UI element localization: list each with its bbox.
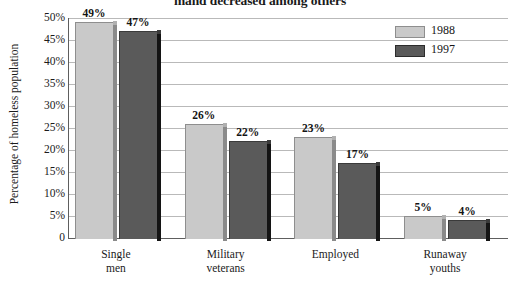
bar-value-label: 22% (225, 126, 271, 138)
bar-side-shadow (376, 166, 380, 241)
bar-face (338, 163, 378, 239)
bar-1988-military-veterans (185, 124, 223, 238)
x-category-label-line: Employed (275, 248, 395, 262)
chart-figure: mand decreased among others Percentage o… (0, 0, 520, 281)
x-category-label-line: Runaway (385, 248, 505, 262)
y-tick-label: 35% (5, 77, 65, 89)
x-category-label-line: youths (385, 262, 505, 276)
y-tick-label: 50% (5, 11, 65, 23)
bar-1997-runaway-youths (448, 220, 486, 238)
bar-value-label: 47% (115, 16, 161, 28)
bar-side-shadow (157, 34, 161, 241)
bar-face (229, 141, 269, 239)
bar-face (448, 220, 488, 239)
bar-top-bevel (332, 136, 336, 140)
bar-1988-employed (294, 137, 332, 238)
x-category-label-line: Military (166, 248, 286, 262)
bar-face (75, 22, 115, 239)
bar-1997-employed (338, 163, 376, 238)
bar-1997-single-men (119, 31, 157, 238)
legend-swatch-icon-1988 (395, 26, 425, 38)
bar-face (404, 216, 444, 239)
bar-1988-runaway-youths (404, 216, 442, 238)
bar-side-shadow (442, 219, 446, 241)
y-tick-label: 25% (5, 121, 65, 133)
bar-value-label: 4% (444, 205, 490, 217)
bar-1997-military-veterans (229, 141, 267, 238)
y-tick-label: 40% (5, 55, 65, 67)
bar-value-label: 17% (334, 148, 380, 160)
legend-label-1997: 1997 (431, 42, 455, 57)
x-category-label-line: veterans (166, 262, 286, 276)
bar-face (294, 137, 334, 239)
bar-top-bevel (267, 140, 271, 144)
y-tick-label: 30% (5, 99, 65, 111)
y-tick-label: 20% (5, 143, 65, 155)
x-category-label-single-men: Singlemen (56, 248, 176, 275)
x-category-label-line: men (56, 262, 176, 276)
x-category-label-line: Single (56, 248, 176, 262)
bar-value-label: 49% (71, 7, 117, 19)
y-tick-label: 5% (5, 209, 65, 221)
bar-value-label: 26% (181, 109, 227, 121)
bar-value-label: 23% (290, 122, 336, 134)
y-tick-label: 45% (5, 33, 65, 45)
bar-top-bevel (486, 219, 490, 223)
bar-top-bevel (376, 162, 380, 166)
bar-side-shadow (486, 223, 490, 241)
bar-face (119, 31, 159, 239)
legend-swatch-icon-1997 (395, 45, 425, 57)
y-tick-label: 10% (5, 187, 65, 199)
bar-value-label: 5% (400, 201, 446, 213)
x-category-label-runaway-youths: Runawayyouths (385, 248, 505, 275)
bar-side-shadow (223, 127, 227, 241)
bar-1988-single-men (75, 22, 113, 238)
x-category-label-military-veterans: Militaryveterans (166, 248, 286, 275)
bar-face (185, 124, 225, 239)
bar-side-shadow (113, 25, 117, 241)
bar-side-shadow (267, 144, 271, 241)
y-tick-label: 0 (5, 231, 65, 243)
bar-top-bevel (157, 30, 161, 34)
y-tick-label: 15% (5, 165, 65, 177)
legend-label-1988: 1988 (431, 23, 455, 38)
y-axis-tick-labels: 05%10%15%20%25%30%35%40%45%50% (0, 0, 65, 281)
x-category-label-employed: Employed (275, 248, 395, 262)
